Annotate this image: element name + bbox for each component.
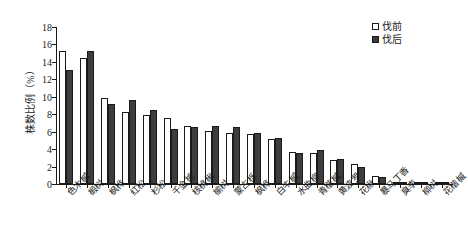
bar-group xyxy=(100,27,116,184)
bar-group xyxy=(350,27,366,184)
y-axis-title: 株数比例（%） xyxy=(22,45,37,155)
y-tick-label: 8 xyxy=(47,109,56,120)
bar-group xyxy=(58,27,74,184)
bar-group xyxy=(288,27,304,184)
y-tick-label: 10 xyxy=(42,91,56,102)
bar-group xyxy=(371,27,387,184)
y-tick-label: 12 xyxy=(42,74,56,85)
bar-group xyxy=(163,27,179,184)
bar-group xyxy=(267,27,283,184)
bar-group xyxy=(79,27,95,184)
bar-after xyxy=(129,100,136,184)
bar-before xyxy=(164,118,171,184)
bar-after xyxy=(87,51,94,184)
bar-before xyxy=(101,98,108,184)
bar-before xyxy=(268,139,275,184)
bar-after xyxy=(108,104,115,184)
bar-group xyxy=(329,27,345,184)
y-tick-label: 2 xyxy=(47,161,56,172)
y-tick-label: 6 xyxy=(47,126,56,137)
bar-group xyxy=(246,27,262,184)
y-tick-label: 16 xyxy=(42,39,56,50)
bar-after xyxy=(150,110,157,184)
y-tick-label: 4 xyxy=(47,144,56,155)
bar-group xyxy=(121,27,137,184)
bar-before xyxy=(122,112,129,184)
bar-after xyxy=(66,70,73,184)
bar-group xyxy=(183,27,199,184)
bar-group xyxy=(434,27,450,184)
bar-after xyxy=(275,138,282,184)
bar-group xyxy=(309,27,325,184)
plot-area: 024681012141618 xyxy=(56,27,452,184)
y-tick-label: 0 xyxy=(47,179,56,190)
bar-before xyxy=(226,133,233,184)
bar-group xyxy=(413,27,429,184)
y-tick-label: 14 xyxy=(42,56,56,67)
bar-after xyxy=(171,129,178,184)
bar-after xyxy=(233,127,240,184)
bar-group xyxy=(142,27,158,184)
bar-before xyxy=(59,51,66,184)
bar-group xyxy=(204,27,220,184)
bar-before xyxy=(80,58,87,184)
bar-before xyxy=(143,115,150,184)
bar-group xyxy=(225,27,241,184)
y-tick-label: 18 xyxy=(42,22,56,33)
bar-group xyxy=(392,27,408,184)
